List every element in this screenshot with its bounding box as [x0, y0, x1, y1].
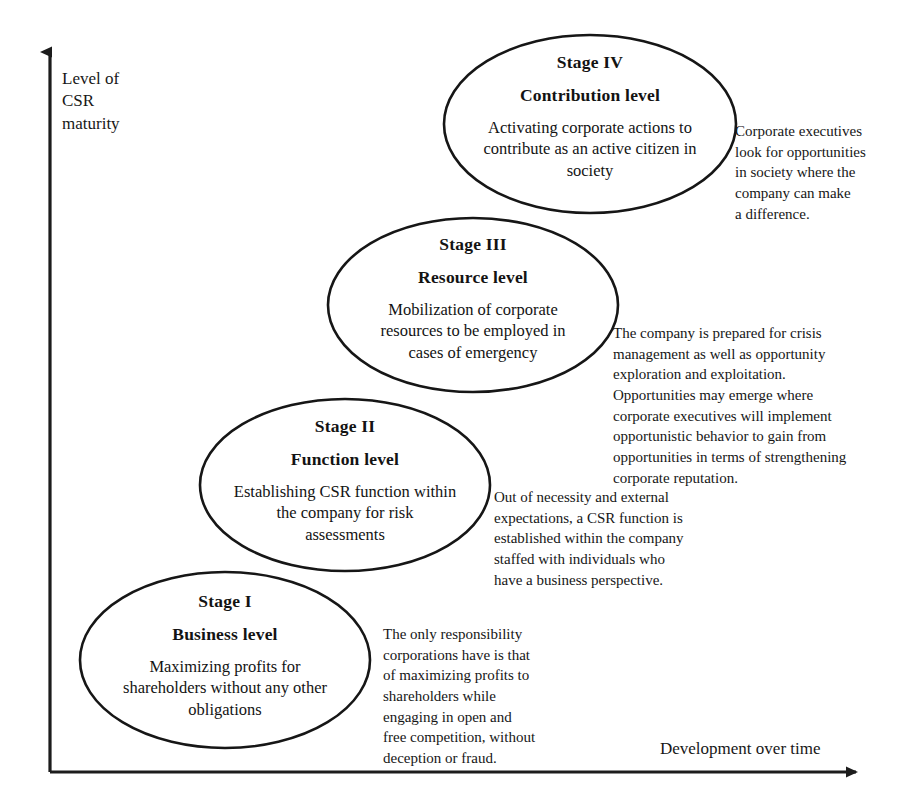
diagram-canvas: Level of CSR maturity Development over t… [0, 0, 911, 808]
stage-2-title: Function level [208, 449, 482, 470]
stage-1-number: Stage I [88, 591, 362, 612]
stage-2-annotation: Out of necessity and external expectatio… [494, 487, 746, 590]
stage-1-text-block: Stage I Business level Maximizing profit… [88, 591, 362, 720]
stage-2-text-block: Stage II Function level Establishing CSR… [208, 416, 482, 545]
stage-1-title: Business level [88, 624, 362, 645]
stage-4-description: Activating corporate actions to contribu… [456, 117, 724, 181]
stage-1-description: Maximizing profits for shareholders with… [88, 656, 362, 720]
stage-3-description: Mobilization of corporate resources to b… [339, 299, 607, 363]
stage-3-text-block: Stage III Resource level Mobilization of… [339, 234, 607, 363]
stage-4-text-block: Stage IV Contribution level Activating c… [456, 52, 724, 181]
stage-4-annotation: Corporate executives look for opportunit… [735, 121, 910, 224]
stage-1-annotation: The only responsibility corporations hav… [383, 624, 608, 769]
stage-2-description: Establishing CSR function within the com… [208, 481, 482, 545]
stage-3-annotation: The company is prepared for crisis manag… [613, 323, 908, 489]
stage-3-title: Resource level [339, 267, 607, 288]
stage-4-title: Contribution level [456, 85, 724, 106]
stage-2-number: Stage II [208, 416, 482, 437]
stage-4-number: Stage IV [456, 52, 724, 73]
stage-3-number: Stage III [339, 234, 607, 255]
